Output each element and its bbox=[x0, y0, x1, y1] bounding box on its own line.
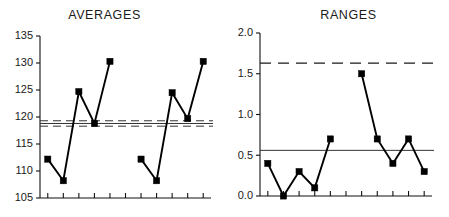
ranges-plot-area: 0.00.51.01.52.0 bbox=[224, 0, 449, 217]
data-point-marker bbox=[45, 156, 51, 162]
data-point-marker bbox=[138, 156, 144, 162]
data-point-marker bbox=[60, 178, 66, 184]
averages-chart-panel: AVERAGES 105110115120125130135 bbox=[0, 0, 225, 217]
y-tick-label: 120 bbox=[15, 110, 33, 122]
data-point-marker bbox=[359, 71, 365, 77]
data-point-marker bbox=[153, 178, 159, 184]
y-tick-label: 125 bbox=[15, 83, 33, 95]
data-point-marker bbox=[200, 58, 206, 64]
y-tick-label: 1.5 bbox=[238, 67, 253, 79]
averages-plot-area: 105110115120125130135 bbox=[0, 0, 225, 217]
y-tick-label: 0.5 bbox=[238, 149, 253, 161]
y-tick-label: 0.0 bbox=[238, 189, 253, 201]
data-series-line bbox=[268, 139, 331, 196]
ranges-chart-panel: RANGES 0.00.51.01.52.0 bbox=[224, 0, 449, 217]
data-series-line bbox=[362, 74, 425, 172]
y-tick-label: 105 bbox=[15, 191, 33, 203]
data-point-marker bbox=[280, 193, 286, 199]
data-point-marker bbox=[185, 116, 191, 122]
data-point-marker bbox=[91, 120, 97, 126]
data-point-marker bbox=[374, 136, 380, 142]
data-point-marker bbox=[296, 168, 302, 174]
data-point-marker bbox=[405, 136, 411, 142]
data-point-marker bbox=[327, 136, 333, 142]
y-tick-label: 130 bbox=[15, 56, 33, 68]
y-tick-label: 115 bbox=[15, 137, 33, 149]
data-point-marker bbox=[421, 168, 427, 174]
data-point-marker bbox=[390, 160, 396, 166]
y-tick-label: 1.0 bbox=[238, 108, 253, 120]
y-tick-label: 135 bbox=[15, 29, 33, 41]
data-point-marker bbox=[265, 160, 271, 166]
y-tick-label: 110 bbox=[15, 164, 33, 176]
data-point-marker bbox=[312, 185, 318, 191]
data-point-marker bbox=[169, 90, 175, 96]
y-tick-label: 2.0 bbox=[238, 26, 253, 38]
data-point-marker bbox=[76, 89, 82, 95]
control-chart-figure: AVERAGES 105110115120125130135 RANGES 0.… bbox=[0, 0, 449, 217]
data-point-marker bbox=[107, 58, 113, 64]
